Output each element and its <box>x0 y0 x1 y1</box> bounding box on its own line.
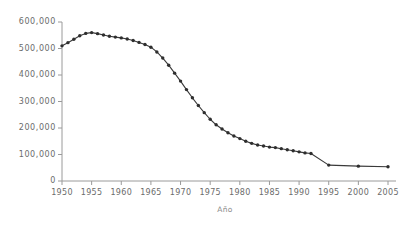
data-point <box>268 145 271 148</box>
data-point <box>60 44 63 47</box>
y-tick-label: 0 <box>6 177 56 185</box>
data-series-group <box>60 31 389 168</box>
y-tick-label: 100,000 <box>6 151 56 159</box>
data-point <box>149 45 152 48</box>
y-tick-label: 500,000 <box>6 45 56 53</box>
data-point <box>244 140 247 143</box>
data-point <box>214 123 217 126</box>
data-point <box>155 50 158 53</box>
data-point <box>96 32 99 35</box>
data-point <box>303 151 306 154</box>
data-point <box>161 56 164 59</box>
data-point <box>197 104 200 107</box>
data-point <box>90 31 93 34</box>
y-tick-label: 300,000 <box>6 98 56 106</box>
data-point <box>357 164 360 167</box>
data-point <box>78 34 81 37</box>
data-point <box>386 165 389 168</box>
data-point <box>238 137 241 140</box>
data-point <box>208 118 211 121</box>
data-point <box>250 142 253 145</box>
data-point <box>179 79 182 82</box>
data-point <box>185 88 188 91</box>
data-point <box>274 146 277 149</box>
data-point <box>280 147 283 150</box>
data-point <box>173 71 176 74</box>
data-point <box>309 152 312 155</box>
data-point <box>191 96 194 99</box>
data-point <box>72 38 75 41</box>
data-point <box>327 163 330 166</box>
data-point <box>167 63 170 66</box>
data-point <box>120 36 123 39</box>
data-point <box>256 143 259 146</box>
data-point <box>126 37 129 40</box>
data-point <box>286 148 289 151</box>
data-point <box>102 33 105 36</box>
data-point <box>131 39 134 42</box>
data-point <box>262 144 265 147</box>
data-point <box>226 131 229 134</box>
series-line <box>62 33 388 167</box>
line-chart: 0100,000200,000300,000400,000500,000600,… <box>0 0 414 225</box>
y-tick-label: 200,000 <box>6 124 56 132</box>
data-point <box>232 134 235 137</box>
data-point <box>108 35 111 38</box>
y-tick-label: 400,000 <box>6 71 56 79</box>
series-markers <box>60 31 389 168</box>
data-point <box>137 41 140 44</box>
data-point <box>66 41 69 44</box>
y-tick-label: 600,000 <box>6 18 56 26</box>
axes-group <box>58 22 396 185</box>
data-point <box>291 149 294 152</box>
data-point <box>114 35 117 38</box>
data-point <box>203 111 206 114</box>
x-tick-label: 2005 <box>368 189 408 197</box>
x-tick-marks <box>62 181 388 185</box>
data-point <box>220 127 223 130</box>
data-point <box>297 150 300 153</box>
x-axis-title: Año <box>195 206 255 214</box>
data-point <box>143 43 146 46</box>
data-point <box>84 32 87 35</box>
